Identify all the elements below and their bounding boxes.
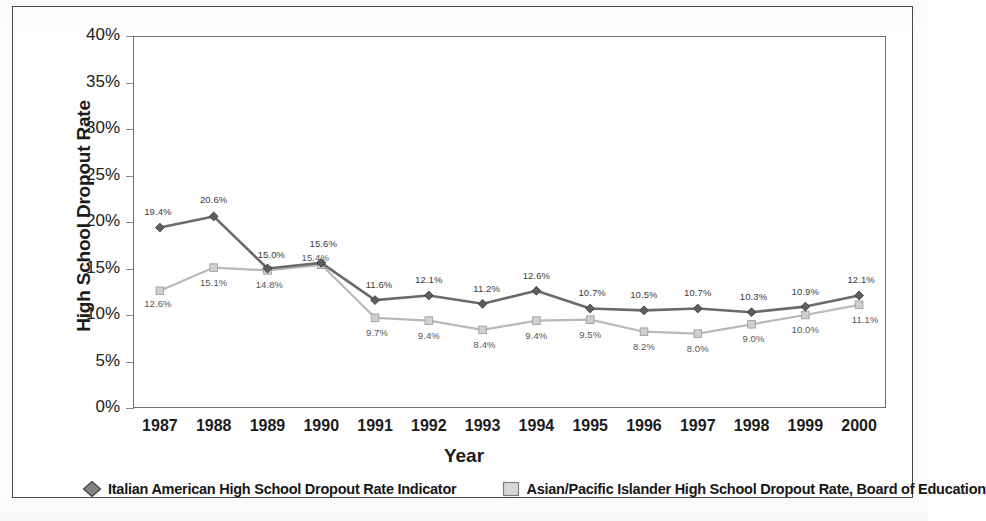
x-tick-label: 1993 <box>453 417 513 435</box>
x-tick-label: 1990 <box>291 417 351 435</box>
y-tick-label: 15% <box>62 258 120 278</box>
data-point-label: 11.1% <box>852 314 879 325</box>
data-point-label: 19.4% <box>144 206 171 217</box>
data-point-label: 10.5% <box>630 289 657 300</box>
data-point-label: 15.1% <box>200 277 227 288</box>
data-point-label: 15.0% <box>258 249 285 260</box>
y-tick-label: 20% <box>62 211 120 231</box>
data-point-label: 10.7% <box>684 287 711 298</box>
legend-item-italian-american: Italian American High School Dropout Rat… <box>82 480 456 498</box>
square-marker-icon <box>502 481 520 497</box>
x-tick-label: 1996 <box>614 417 674 435</box>
y-tick-mark <box>126 408 134 409</box>
data-point-label: 12.1% <box>415 274 442 285</box>
x-axis-title: Year <box>0 445 928 467</box>
plot-area <box>133 36 886 408</box>
data-point-label: 10.7% <box>578 287 605 298</box>
data-point-label: 9.4% <box>525 330 547 341</box>
data-point-label: 10.9% <box>792 286 819 297</box>
legend-label-asian-pacific-islander: Asian/Pacific Islander High School Dropo… <box>526 481 985 497</box>
data-point-label: 20.6% <box>200 194 227 205</box>
data-point-label: 15.4% <box>302 252 329 263</box>
data-point-label: 9.4% <box>418 330 440 341</box>
data-point-label: 9.5% <box>579 329 601 340</box>
x-tick-label: 1987 <box>130 417 190 435</box>
data-point-label: 8.2% <box>633 341 655 352</box>
x-tick-label: 1995 <box>560 417 620 435</box>
data-point-label: 10.0% <box>792 324 819 335</box>
x-tick-label: 1994 <box>506 417 566 435</box>
x-tick-label: 1992 <box>399 417 459 435</box>
y-tick-label: 25% <box>62 165 120 185</box>
y-tick-label: 40% <box>62 25 120 45</box>
x-tick-label: 1988 <box>184 417 244 435</box>
x-tick-label: 2000 <box>829 417 889 435</box>
y-tick-label: 5% <box>62 351 120 371</box>
legend-item-asian-pacific-islander: Asian/Pacific Islander High School Dropo… <box>502 481 985 497</box>
data-point-label: 11.6% <box>366 279 393 290</box>
x-tick-label: 1997 <box>668 417 728 435</box>
data-point-label: 12.1% <box>847 274 874 285</box>
x-tick-label: 1989 <box>237 417 297 435</box>
data-point-label: 9.7% <box>366 327 388 338</box>
data-point-label: 8.0% <box>687 343 709 354</box>
data-point-label: 9.0% <box>743 333 765 344</box>
x-tick-label: 1998 <box>722 417 782 435</box>
data-point-label: 8.4% <box>474 339 496 350</box>
legend-label-italian-american: Italian American High School Dropout Rat… <box>108 481 456 497</box>
data-point-label: 12.6% <box>523 270 550 281</box>
data-point-label: 11.2% <box>473 283 500 294</box>
diamond-marker-icon <box>82 480 102 498</box>
chart-legend: Italian American High School Dropout Rat… <box>16 474 912 504</box>
data-point-label: 12.6% <box>144 298 171 309</box>
data-point-label: 10.3% <box>740 291 767 302</box>
data-point-label: 15.6% <box>310 238 337 249</box>
y-tick-label: 0% <box>62 397 120 417</box>
x-tick-label: 1991 <box>345 417 405 435</box>
y-tick-label: 35% <box>62 72 120 92</box>
x-tick-label: 1999 <box>775 417 835 435</box>
y-tick-label: 30% <box>62 118 120 138</box>
y-tick-label: 10% <box>62 304 120 324</box>
data-point-label: 14.8% <box>256 279 283 290</box>
